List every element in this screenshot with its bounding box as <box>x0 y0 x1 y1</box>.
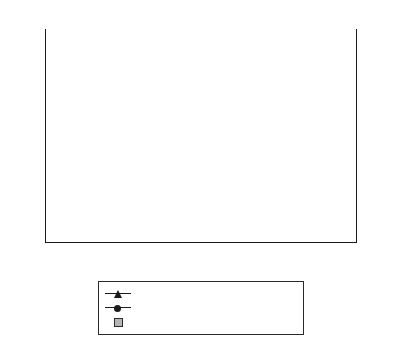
temperature-lines <box>45 29 357 243</box>
gray-square-marker-icon <box>105 316 131 327</box>
circle-line-marker-icon <box>105 302 131 313</box>
plot-area <box>45 29 357 243</box>
legend-item-rainfall <box>105 315 297 328</box>
legend-item-max-temp <box>105 287 297 300</box>
triangle-line-marker-icon <box>105 288 131 299</box>
chart-legend <box>98 281 304 335</box>
legend-item-min-temp <box>105 301 297 314</box>
climate-chart <box>0 0 395 346</box>
